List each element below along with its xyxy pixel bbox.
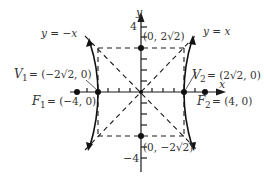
svg-text:= (4, 0): = (4, 0)	[212, 95, 252, 107]
svg-text:= (2√2, 0): = (2√2, 0)	[207, 69, 261, 81]
y-axis-label: y	[135, 6, 143, 19]
origin	[139, 90, 143, 94]
label-v2: V 2 = (2√2, 0)	[192, 68, 261, 84]
svg-text:= (−2√2, 0): = (−2√2, 0)	[29, 68, 92, 80]
svg-text:2: 2	[200, 74, 206, 84]
svg-text:1: 1	[22, 73, 28, 83]
label-bottom-point: (0, −2√2)	[143, 141, 193, 153]
asymptote-label-neg: y = −x	[40, 27, 77, 39]
svg-text:= (−4, 0): = (−4, 0)	[47, 95, 96, 107]
label-v1: V 1 = (−2√2, 0)	[14, 67, 92, 83]
point-bottom	[138, 133, 144, 139]
svg-text:1: 1	[40, 100, 46, 110]
vertex-v2	[181, 89, 187, 95]
point-top	[138, 45, 144, 51]
asymptote-label-pos: y = x	[202, 25, 230, 37]
label-top-point: (0, 2√2)	[143, 30, 185, 42]
hyperbola-diagram: y x 4 −4 y = −x y = x (0, 2√2) (0, −2√2)…	[0, 0, 264, 178]
svg-text:2: 2	[205, 100, 211, 110]
y-tick-4: 4	[130, 20, 137, 33]
label-f1: F 1 = (−4, 0)	[31, 94, 96, 110]
label-f2: F 2 = (4, 0)	[196, 94, 252, 110]
y-tick-neg4: −4	[123, 152, 139, 165]
